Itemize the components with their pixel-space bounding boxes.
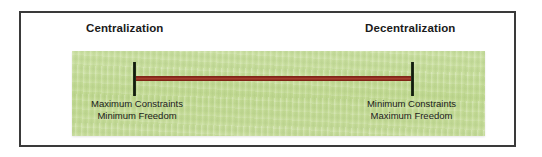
pole-heading-decentralization: Decentralization <box>365 22 455 34</box>
endpoint-caption-decentralization: Minimum Constraints Maximum Freedom <box>350 98 473 122</box>
spectrum-axis-line <box>134 76 413 81</box>
pole-heading-centralization: Centralization <box>86 22 163 34</box>
endpoint-caption-line-1: Minimum Constraints <box>350 98 473 110</box>
endpoint-caption-centralization: Maximum Constraints Minimum Freedom <box>77 98 197 122</box>
endpoint-caption-line-2: Maximum Freedom <box>350 110 473 122</box>
endpoint-caption-line-2: Minimum Freedom <box>77 110 197 122</box>
continuum-figure: Centralization Decentralization Maximum … <box>0 0 542 157</box>
axis-tick-right-icon <box>411 62 414 96</box>
endpoint-caption-line-1: Maximum Constraints <box>77 98 197 110</box>
axis-tick-left-icon <box>133 62 136 96</box>
